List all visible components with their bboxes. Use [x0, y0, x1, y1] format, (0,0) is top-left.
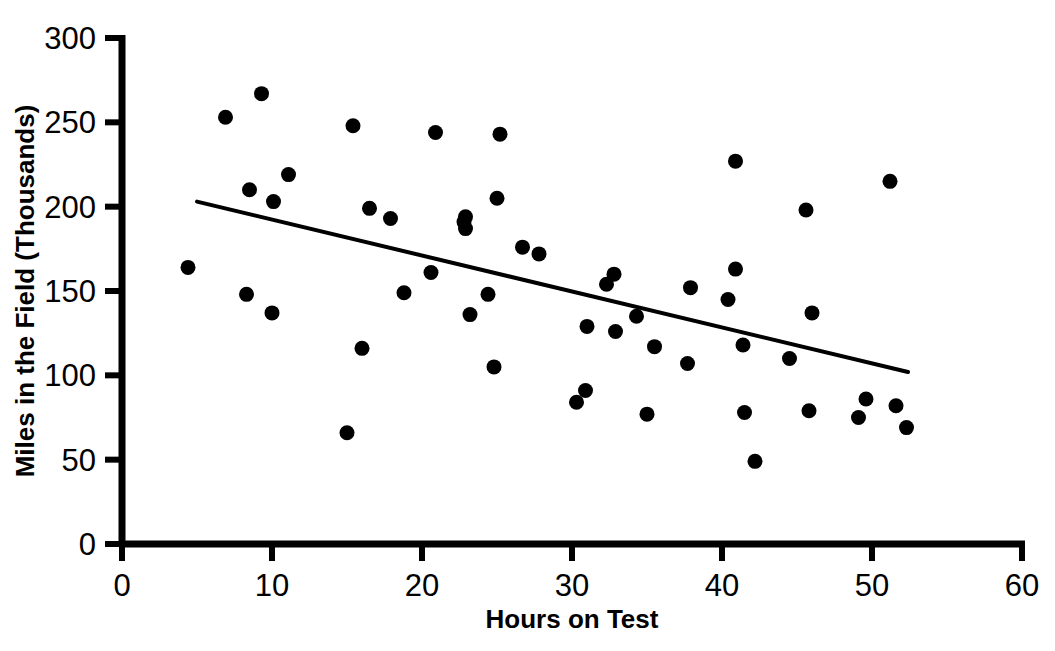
- data-point: [254, 86, 269, 101]
- data-point: [721, 292, 736, 307]
- regression-line: [197, 202, 908, 372]
- data-point: [346, 118, 361, 133]
- data-point: [266, 194, 281, 209]
- x-tick-label: 20: [405, 568, 439, 603]
- data-point: [463, 307, 478, 322]
- y-tick-label: 300: [44, 21, 96, 56]
- data-point: [218, 110, 233, 125]
- data-point: [532, 246, 547, 261]
- data-point: [481, 287, 496, 302]
- data-point: [728, 262, 743, 277]
- data-point: [281, 167, 296, 182]
- data-point: [181, 260, 196, 275]
- data-point: [608, 324, 623, 339]
- x-tick-label: 60: [1005, 568, 1039, 603]
- data-point: [383, 211, 398, 226]
- y-tick-label: 200: [44, 190, 96, 225]
- data-point: [490, 191, 505, 206]
- data-point: [578, 383, 593, 398]
- data-point: [355, 341, 370, 356]
- data-point: [647, 339, 662, 354]
- data-point: [428, 125, 443, 140]
- data-point: [899, 420, 914, 435]
- data-point: [736, 337, 751, 352]
- y-tick-label: 250: [44, 105, 96, 140]
- data-point: [458, 209, 473, 224]
- data-point: [748, 454, 763, 469]
- y-tick-label: 0: [79, 527, 96, 562]
- x-tick-labels: 0102030405060: [113, 568, 1039, 603]
- x-tick-label: 10: [255, 568, 289, 603]
- data-point: [397, 285, 412, 300]
- data-point: [851, 410, 866, 425]
- data-point: [683, 280, 698, 295]
- data-point: [805, 305, 820, 320]
- y-tick-label: 100: [44, 358, 96, 393]
- data-point: [799, 203, 814, 218]
- data-point: [340, 425, 355, 440]
- data-point: [569, 395, 584, 410]
- x-tick-label: 30: [555, 568, 589, 603]
- data-point: [629, 309, 644, 324]
- data-point: [487, 359, 502, 374]
- x-tick-label: 50: [855, 568, 889, 603]
- data-point: [728, 154, 743, 169]
- data-point: [362, 201, 377, 216]
- data-point: [239, 287, 254, 302]
- data-point: [424, 265, 439, 280]
- y-axis-title: Miles in the Field (Thousands): [10, 105, 40, 478]
- plot-canvas: 0102030405060 050100150200250300 Hours o…: [0, 0, 1055, 651]
- x-axis-title: Hours on Test: [486, 604, 659, 634]
- data-point: [242, 182, 257, 197]
- y-tick-labels: 050100150200250300: [44, 21, 96, 562]
- data-point: [737, 405, 752, 420]
- x-tick-label: 0: [113, 568, 130, 603]
- data-point: [607, 267, 622, 282]
- data-point: [859, 391, 874, 406]
- data-point: [680, 356, 695, 371]
- data-point: [802, 403, 817, 418]
- data-point: [265, 305, 280, 320]
- data-point: [640, 407, 655, 422]
- y-tick-label: 150: [44, 274, 96, 309]
- data-point: [883, 174, 898, 189]
- data-point: [580, 319, 595, 334]
- x-tick-label: 40: [705, 568, 739, 603]
- data-point: [515, 240, 530, 255]
- data-points: [181, 86, 915, 469]
- scatter-plot-figure: 0102030405060 050100150200250300 Hours o…: [0, 0, 1055, 651]
- data-point: [782, 351, 797, 366]
- data-point: [889, 398, 904, 413]
- trend-line: [197, 202, 908, 372]
- data-point: [493, 127, 508, 142]
- y-tick-label: 50: [62, 443, 96, 478]
